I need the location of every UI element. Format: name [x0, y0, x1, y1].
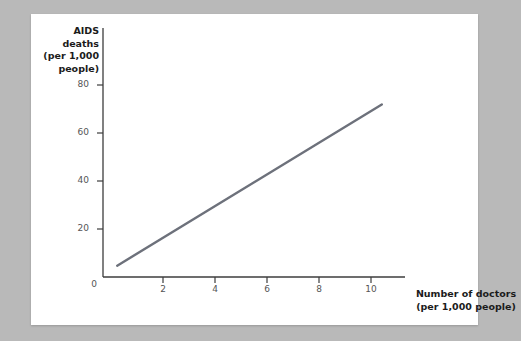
x-tick-label-2: 2: [153, 284, 173, 294]
y-tick-label-20: 20: [63, 223, 89, 233]
x-axis-ticks: [163, 277, 371, 283]
y-tick-label-60: 60: [63, 127, 89, 137]
chart-card: AIDS deaths (per 1,000 people) Number of…: [31, 14, 478, 325]
x-tick-label-6: 6: [257, 284, 277, 294]
data-series-line: [117, 104, 382, 265]
origin-label: 0: [83, 279, 97, 289]
x-tick-label-8: 8: [309, 284, 329, 294]
x-tick-label-10: 10: [361, 284, 381, 294]
x-tick-label-4: 4: [205, 284, 225, 294]
y-axis-ticks: [97, 85, 103, 229]
y-tick-label-40: 40: [63, 175, 89, 185]
chart-plot-area: [31, 14, 478, 325]
y-tick-label-80: 80: [63, 79, 89, 89]
